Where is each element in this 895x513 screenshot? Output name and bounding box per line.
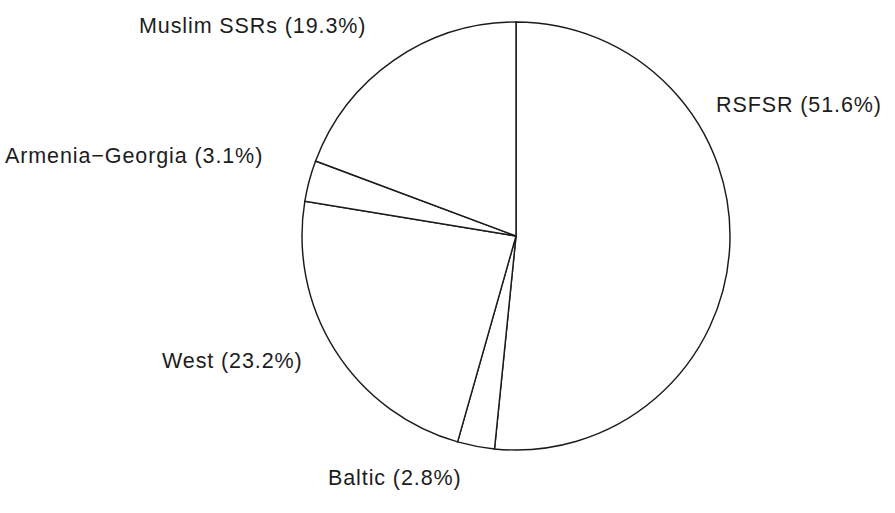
pie-chart-figure: Muslim SSRs (19.3%) RSFSR (51.6%) Armeni… — [0, 0, 895, 513]
pie-label-rsfsr: RSFSR (51.6%) — [716, 94, 882, 117]
pie-label-west: West (23.2%) — [162, 350, 303, 373]
pie-label-muslim-ssrs: Muslim SSRs (19.3%) — [139, 15, 366, 38]
pie-slice-group — [302, 22, 730, 450]
pie-slice-rsfsr — [495, 22, 730, 450]
pie-chart-svg — [0, 0, 895, 513]
pie-label-baltic: Baltic (2.8%) — [328, 467, 462, 490]
pie-label-armenia-georgia: Armenia−Georgia (3.1%) — [5, 145, 263, 168]
